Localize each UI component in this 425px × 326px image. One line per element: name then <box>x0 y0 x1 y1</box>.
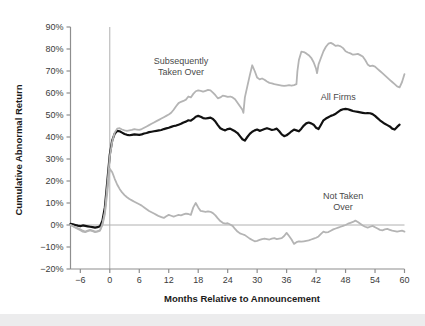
subsequently-taken-over-label: SubsequentlyTaken Over <box>154 56 209 77</box>
x-axis-tick-label: 0 <box>107 275 112 285</box>
x-axis-tick-label: 6 <box>137 275 142 285</box>
subsequently-taken-over-label-line: Subsequently <box>154 56 209 66</box>
y-axis-tick-label: 50% <box>45 110 63 120</box>
y-axis-tick-label: −10% <box>40 242 63 252</box>
x-axis-tick-label: 54 <box>370 275 380 285</box>
subsequently-taken-over-label-line: Taken Over <box>158 67 204 77</box>
y-axis-tick-label: 10% <box>45 198 63 208</box>
not-taken-over-label-line: Over <box>333 202 353 212</box>
x-axis-tick-label: 12 <box>164 275 174 285</box>
y-axis-tick-label: 80% <box>45 44 63 54</box>
y-axis-tick-label: 70% <box>45 66 63 76</box>
x-axis-tick-label: 42 <box>311 275 321 285</box>
x-axis-tick-label: −6 <box>75 275 85 285</box>
x-axis-tick-label: 36 <box>282 275 292 285</box>
y-axis-tick-label: 90% <box>45 22 63 32</box>
chart-figure: −606121824303642485460 −20%−10%0%10%20%3… <box>0 0 425 326</box>
all-firms-label-line: All Firms <box>321 92 356 102</box>
not-taken-over-label-line: Not Taken <box>323 191 363 201</box>
y-axis-tick-label: 20% <box>45 176 63 186</box>
y-axis-tick-label: 60% <box>45 88 63 98</box>
x-axis-tick-label: 48 <box>341 275 351 285</box>
x-axis-title: Months Relative to Announcement <box>164 293 321 304</box>
y-axis-tick-label: 0% <box>50 220 63 230</box>
y-axis-tick-label: 30% <box>45 154 63 164</box>
chart-background <box>0 0 425 326</box>
y-axis-tick-label: 40% <box>45 132 63 142</box>
x-axis-tick-label: 30 <box>252 275 262 285</box>
x-axis-tick-label: 18 <box>193 275 203 285</box>
x-axis-tick-label: 60 <box>399 275 409 285</box>
y-axis-title: Cumulative Abnormal Return <box>13 84 24 215</box>
bottom-decorative-band <box>0 314 425 326</box>
cumulative-abnormal-return-chart: −606121824303642485460 −20%−10%0%10%20%3… <box>0 0 425 326</box>
y-axis-tick-label: −20% <box>40 264 63 274</box>
all-firms-label: All Firms <box>321 92 356 102</box>
x-axis-tick-label: 24 <box>223 275 233 285</box>
